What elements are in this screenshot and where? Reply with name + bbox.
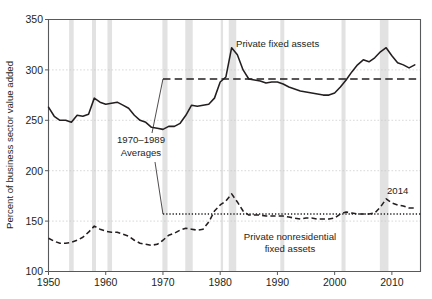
x-axis-tick-label: 2000 xyxy=(323,276,347,288)
series-label-private-nonresidential-line1: Private nonresidential xyxy=(244,231,336,242)
averages-label-years: 1970–1989 xyxy=(117,134,165,145)
recession-band xyxy=(92,20,96,272)
series-label-private-nonresidential-line2: fixed assets xyxy=(265,243,316,254)
y-axis-tick-label: 350 xyxy=(25,13,43,25)
y-axis-tick-label: 300 xyxy=(25,64,43,76)
recession-band xyxy=(221,20,223,272)
endpoint-label-2014: 2014 xyxy=(387,185,409,196)
y-axis-tick-label: 150 xyxy=(25,215,43,227)
recession-band xyxy=(69,20,74,272)
x-axis-tick-label: 1970 xyxy=(151,276,175,288)
chart-container: 100150200250300350 195019601970198019902… xyxy=(0,0,432,299)
x-axis-tick-label: 1960 xyxy=(94,276,118,288)
recession-band xyxy=(162,20,167,272)
y-axis-title: Percent of business sector value added xyxy=(4,61,15,229)
chart-background xyxy=(0,0,432,299)
averages-label-word: Averages xyxy=(121,147,162,158)
economic-line-chart: 100150200250300350 195019601970198019902… xyxy=(0,0,432,299)
y-axis-tick-label: 200 xyxy=(25,165,43,177)
recession-band xyxy=(185,20,192,272)
recession-band xyxy=(380,20,389,272)
x-axis-tick-label: 1950 xyxy=(37,276,61,288)
x-axis-tick-label: 1990 xyxy=(266,276,290,288)
recession-band xyxy=(342,20,346,272)
x-axis-tick-label: 2010 xyxy=(380,276,404,288)
series-label-private-fixed-assets: Private fixed assets xyxy=(236,38,319,49)
recession-band xyxy=(107,20,112,272)
x-axis-tick-label: 1980 xyxy=(209,276,233,288)
y-axis-tick-label: 250 xyxy=(25,114,43,126)
